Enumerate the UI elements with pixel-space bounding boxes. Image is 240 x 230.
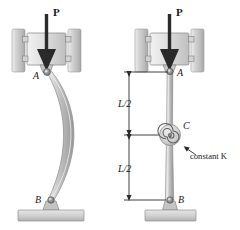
left-load-label: P <box>53 6 60 18</box>
right-joint-label-B: B <box>178 194 184 205</box>
figure-root: P A B <box>0 0 240 230</box>
spring-hub <box>168 133 171 136</box>
spring-constant-label: constant K <box>190 151 228 161</box>
right-pin-B-outer <box>167 197 173 203</box>
right-slider-lug-tl <box>146 37 152 43</box>
left-slider-lug-br <box>66 56 72 62</box>
panel-left-buckled-column: P A B <box>12 6 84 221</box>
right-ground-plate <box>145 210 196 221</box>
engineering-figure: P A B <box>0 0 240 230</box>
right-guide-rail-left <box>135 29 148 72</box>
right-pin-A-inner <box>168 70 170 72</box>
panel-right-column-with-spring: P A C constant K <box>117 6 228 221</box>
dimension-label-lower: L/2 <box>117 163 131 174</box>
right-joint-label-A: A <box>176 67 184 78</box>
right-slider-lug-bl <box>146 56 152 62</box>
left-column-member <box>46 70 74 200</box>
left-support-B <box>18 197 84 221</box>
right-pin-B-inner <box>168 198 170 200</box>
right-guide-rail-right <box>191 29 204 72</box>
left-slider-lug-tr <box>66 37 72 43</box>
right-load-label: P <box>176 6 183 18</box>
left-guide-rail-left <box>12 29 25 72</box>
right-pin-joint-A <box>167 68 173 74</box>
left-pin-B-outer <box>48 197 54 203</box>
right-pin-A-outer <box>167 68 173 74</box>
right-column-upper-segment <box>167 72 173 130</box>
right-slider-lug-tr <box>189 37 195 43</box>
left-slider-lug-bl <box>23 56 29 62</box>
left-ground-plate <box>18 210 84 221</box>
left-joint-label-B: B <box>35 194 41 205</box>
right-slider-lug-br <box>189 56 195 62</box>
left-slider-lug-tl <box>23 37 29 43</box>
right-joint-label-C: C <box>183 120 190 131</box>
left-pin-A-inner <box>45 70 47 72</box>
left-joint-label-A: A <box>32 70 40 81</box>
left-buckled-column <box>46 70 74 200</box>
left-pin-joint-A <box>44 69 51 76</box>
dimension-label-upper: L/2 <box>117 98 131 109</box>
left-guide-rail-right <box>68 29 81 72</box>
torsional-spring-C <box>158 124 181 146</box>
left-pin-B-inner <box>49 198 51 200</box>
